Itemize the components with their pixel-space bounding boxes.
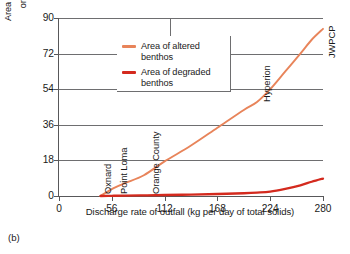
chart-legend: Area of altered benthos Area of degraded… [117,36,231,92]
annotation-point-loma: Point Loma [118,148,129,194]
x-tick-mark-0 [59,196,60,201]
y-tick-label-18: 18 [8,155,54,165]
y-tick-label-36: 36 [8,120,54,130]
legend-swatch-degraded-benthos [122,71,136,74]
figure-caption: (b) [8,232,20,243]
legend-swatch-altered-benthos [122,45,136,48]
series-degraded-benthos-line [100,179,323,196]
legend-entry-altered-benthos: Area of altered benthos [122,41,228,63]
y-tick-label-0: 0 [8,191,54,201]
x-tick-mark-280 [323,196,324,201]
annotation-oxnard: Oxnard [102,164,113,194]
legend-label-altered-benthos: Area of altered benthos [141,41,228,63]
x-tick-mark-224 [270,196,271,201]
y-tick-label-54: 54 [8,84,54,94]
plot-area: 0 56 112 168 224 280 Oxnard Point Loma O… [58,18,323,197]
annotation-jwpcp: JWPCP [326,26,337,58]
x-tick-mark-168 [217,196,218,201]
annotation-orange-county: Orange County [150,132,161,194]
y-tick-label-72: 72 [8,49,54,59]
y-tick-label-90: 90 [8,13,54,23]
figure-chart: Area of seafloor with degraded or altere… [0,0,350,254]
annotation-hyperion: Hyperion [261,65,272,102]
legend-entry-degraded-benthos: Area of degraded benthos [122,67,228,89]
x-axis-title: Discharge rate of outfall (kg per day of… [40,206,340,217]
x-tick-mark-112 [165,196,166,201]
legend-label-degraded-benthos: Area of degraded benthos [141,67,228,89]
